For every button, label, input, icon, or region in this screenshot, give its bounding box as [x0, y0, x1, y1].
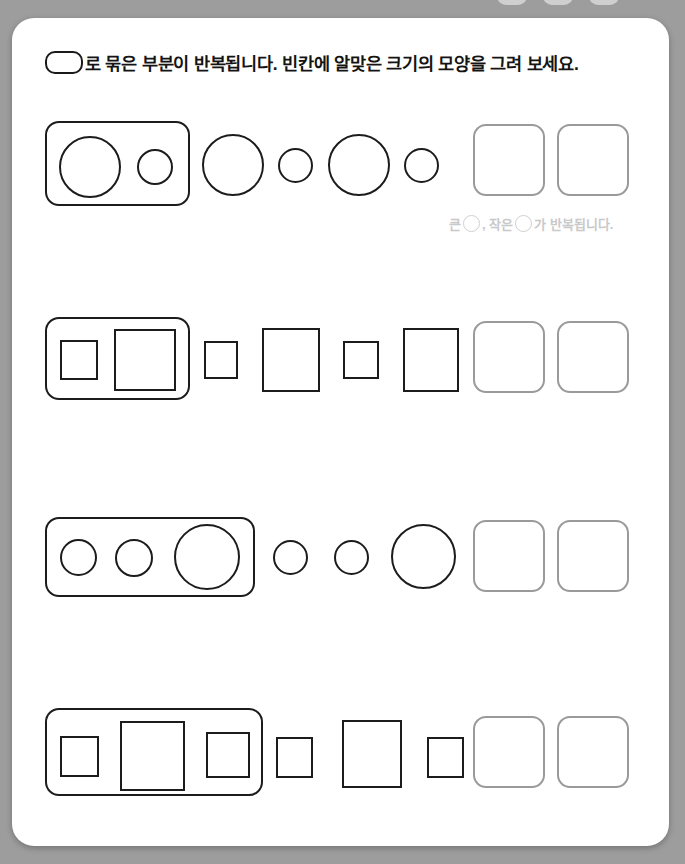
- shape-square-large: [120, 721, 185, 791]
- pattern-row-2: [12, 308, 669, 423]
- answer-box-1[interactable]: [473, 716, 545, 788]
- pattern-row-3: [12, 498, 669, 613]
- answer-box-2[interactable]: [557, 321, 629, 393]
- pattern-row-1: 큰 , 작은 가 반복됩니다.: [12, 118, 669, 248]
- answer-box-2[interactable]: [557, 520, 629, 592]
- row-1-hint: 큰 , 작은 가 반복됩니다.: [449, 214, 613, 233]
- shape-square-small: [343, 341, 379, 379]
- tab-nub: [497, 0, 527, 5]
- answer-box-1[interactable]: [473, 321, 545, 393]
- shape-square-small: [204, 341, 238, 379]
- shape-circle-large: [174, 524, 240, 590]
- answer-box-2[interactable]: [557, 716, 629, 788]
- hint-middle: , 작은: [482, 214, 513, 233]
- shape-circle-small: [273, 540, 308, 575]
- shape-circle-large: [59, 136, 121, 198]
- shape-square-large: [342, 720, 402, 788]
- hint-suffix: 가 반복됩니다.: [534, 214, 613, 233]
- shape-square-medium: [206, 732, 250, 778]
- shape-circle-large: [391, 524, 456, 589]
- shape-circle-large: [328, 134, 390, 196]
- shape-square-small: [60, 736, 99, 777]
- rounded-rectangle-glyph-icon: [45, 51, 83, 74]
- page-tab-strip: [0, 0, 685, 12]
- shape-circle-large: [202, 134, 264, 196]
- answer-box-1[interactable]: [473, 124, 545, 196]
- answer-box-2[interactable]: [557, 124, 629, 196]
- tab-nub: [589, 0, 619, 5]
- shape-circle-small: [60, 539, 97, 576]
- circle-outline-icon: [515, 215, 532, 232]
- tab-nub: [543, 0, 573, 5]
- hint-prefix: 큰: [449, 214, 461, 233]
- shape-circle-small: [404, 148, 439, 183]
- shape-square-large: [262, 328, 320, 392]
- worksheet-sheet: 로 묶은 부분이 반복됩니다. 빈칸에 알맞은 크기의 모양을 그려 보세요. …: [12, 18, 669, 846]
- shape-circle-small: [334, 540, 369, 575]
- circle-outline-icon: [463, 215, 480, 232]
- shape-circle-small: [137, 149, 173, 185]
- answer-box-1[interactable]: [473, 520, 545, 592]
- shape-circle-small: [278, 148, 313, 183]
- instruction-text: 로 묶은 부분이 반복됩니다. 빈칸에 알맞은 크기의 모양을 그려 보세요.: [85, 50, 579, 75]
- shape-circle-small: [115, 539, 153, 577]
- instruction-line: 로 묶은 부분이 반복됩니다. 빈칸에 알맞은 크기의 모양을 그려 보세요.: [45, 50, 579, 75]
- shape-square-small: [60, 340, 98, 380]
- shape-square-small: [427, 737, 464, 778]
- shape-square-large: [114, 329, 176, 391]
- shape-square-large: [403, 328, 459, 392]
- pattern-row-4: [12, 683, 669, 803]
- shape-square-small: [276, 737, 313, 778]
